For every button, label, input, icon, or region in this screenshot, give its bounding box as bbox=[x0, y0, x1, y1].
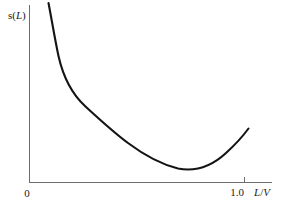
origin-tick-label: 0 bbox=[24, 187, 30, 199]
y-axis-label-suffix: ) bbox=[22, 9, 26, 22]
x-axis-label-denominator: V bbox=[263, 186, 271, 198]
y-axis-label: s(L) bbox=[8, 9, 26, 22]
x-axis-label-numerator: L bbox=[253, 186, 260, 198]
x-tick-label-1-0: 1.0 bbox=[230, 186, 244, 198]
plot-svg: s(L) 1.0 0 L/V bbox=[0, 0, 290, 208]
data-curve-s-of-l bbox=[49, 3, 249, 169]
x-axis-label: L/V bbox=[253, 186, 271, 198]
figure-container: s(L) 1.0 0 L/V bbox=[0, 0, 290, 208]
y-axis-label-italic: L bbox=[15, 9, 22, 21]
